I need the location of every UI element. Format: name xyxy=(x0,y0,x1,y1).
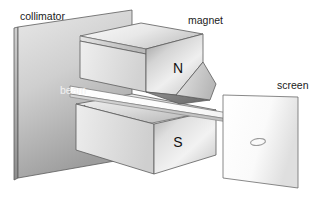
south-pole-label: S xyxy=(173,134,182,150)
stern-gerlach-figure: S N xyxy=(0,0,327,209)
collimator-label: collimator xyxy=(20,10,65,22)
screen-label: screen xyxy=(277,79,309,91)
beam-label: beam xyxy=(60,84,87,96)
apparatus-scene: S N xyxy=(0,0,327,209)
screen-plate xyxy=(223,95,298,188)
collimator-side-edge xyxy=(14,27,18,180)
north-pole-label: N xyxy=(173,60,183,76)
magnet-label: magnet xyxy=(188,14,223,26)
screen-part xyxy=(223,95,298,188)
